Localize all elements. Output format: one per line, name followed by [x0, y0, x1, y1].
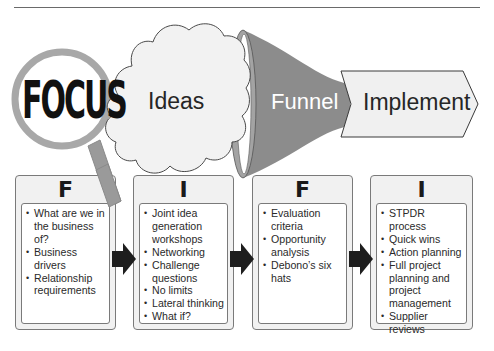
- list-item: Action planning: [381, 246, 464, 259]
- stage-letter: F: [16, 177, 115, 202]
- list-item: Debono’s six hats: [263, 259, 344, 285]
- stage-letter: I: [371, 177, 472, 202]
- list-item: Evaluation criteria: [263, 207, 344, 233]
- list-item: STPDR process: [381, 207, 464, 233]
- stage-box-ideas: I Joint idea generation workshops Networ…: [133, 175, 234, 330]
- list-item: No limits: [144, 284, 225, 297]
- ideas-label: Ideas: [148, 88, 204, 115]
- implement-label: Implement: [363, 89, 470, 116]
- list-item: Networking: [144, 246, 225, 259]
- funnel-label: Funnel: [271, 89, 338, 115]
- right-arrow-icon: [112, 243, 136, 275]
- focus-label: FOCUS: [22, 70, 106, 130]
- stage-list-container: Evaluation criteria Opportunity analysis…: [258, 203, 347, 324]
- list-item: Lateral thinking: [144, 297, 225, 310]
- list-item: Challenge questions: [144, 259, 225, 285]
- list-item: Full project planning and project manage…: [381, 259, 464, 311]
- list-item: Quick wins: [381, 233, 464, 246]
- stage-list-container: What are we in the business of? Business…: [21, 203, 110, 324]
- stage-box-focus: F What are we in the business of? Busine…: [15, 175, 116, 330]
- list-item: Relationship requirements: [26, 272, 107, 298]
- stage-list-container: Joint idea generation workshops Networki…: [139, 203, 228, 324]
- stage-letter: F: [253, 177, 352, 202]
- list-item: Business drivers: [26, 246, 107, 272]
- list-item: Supplier reviews: [381, 310, 464, 336]
- list-item: What if?: [144, 310, 225, 323]
- right-arrow-icon: [230, 243, 254, 275]
- list-item: What are we in the business of?: [26, 207, 107, 246]
- stage-box-funnel: F Evaluation criteria Opportunity analys…: [252, 175, 353, 330]
- stage-letter: I: [134, 177, 233, 202]
- list-item: Joint idea generation workshops: [144, 207, 225, 246]
- right-arrow-icon: [349, 243, 373, 275]
- list-item: Opportunity analysis: [263, 233, 344, 259]
- stage-box-implement: I STPDR process Quick wins Action planni…: [370, 175, 473, 330]
- stage-list-container: STPDR process Quick wins Action planning…: [376, 203, 467, 324]
